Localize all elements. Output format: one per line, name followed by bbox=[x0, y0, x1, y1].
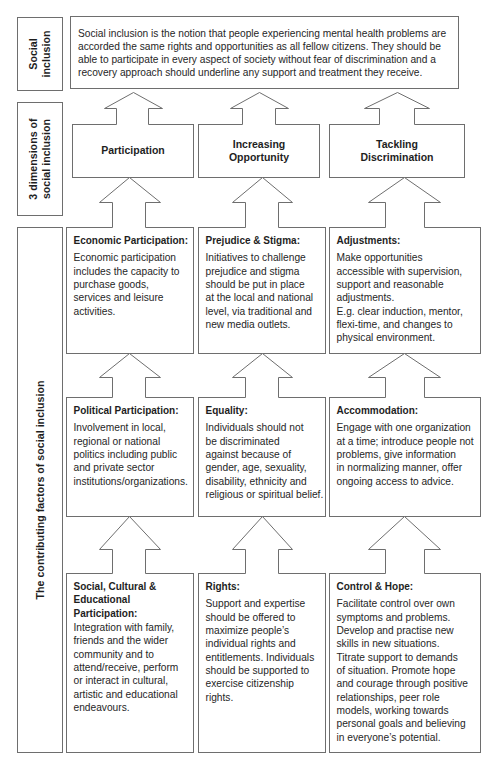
factor-body: Support and expertise should be offered … bbox=[206, 597, 319, 704]
up-arrow-icon bbox=[233, 354, 293, 399]
factor-card-equality: Equality: Individuals should not be disc… bbox=[198, 397, 326, 517]
social-inclusion-definition-text: Social inclusion is the notion that peop… bbox=[78, 27, 446, 80]
up-arrow-icon bbox=[369, 517, 441, 575]
label-contributing-factors-text: The contributing factors of social inclu… bbox=[34, 380, 47, 599]
up-arrow-icon bbox=[369, 178, 441, 229]
factor-heading: Control & Hope: bbox=[337, 580, 474, 593]
up-arrow-icon bbox=[100, 354, 161, 399]
up-arrow-icon bbox=[231, 93, 289, 126]
dimension-label: Participation bbox=[101, 144, 165, 158]
label-social-inclusion-text: Social inclusion bbox=[27, 31, 53, 78]
factor-card-rights: Rights: Support and expertise should be … bbox=[198, 573, 326, 753]
factor-card-control-hope: Control & Hope: Facilitate control over … bbox=[329, 573, 481, 753]
factor-body: Integration with family, friends and the… bbox=[74, 621, 187, 714]
label-social-inclusion: Social inclusion bbox=[17, 17, 63, 91]
up-arrow-icon bbox=[100, 178, 161, 229]
factor-body: Initiatives to challenge prejudice and s… bbox=[206, 251, 319, 331]
dimension-tackling-discrimination: Tackling Discrimination bbox=[329, 124, 465, 178]
up-arrow-icon bbox=[233, 178, 293, 229]
factor-heading: Adjustments: bbox=[337, 234, 474, 247]
factor-body: Involvement in local, regional or nation… bbox=[74, 421, 187, 488]
up-arrow-icon bbox=[100, 517, 161, 575]
dimension-label: Tackling Discrimination bbox=[361, 138, 434, 165]
factor-card-social-cultural-educational: Social, Cultural & Educational Participa… bbox=[66, 573, 194, 753]
factor-body: Make opportunities accessible with super… bbox=[337, 251, 474, 344]
social-inclusion-definition-box: Social inclusion is the notion that peop… bbox=[70, 16, 459, 89]
factor-card-accommodation: Accommodation: Engage with one organizat… bbox=[329, 397, 481, 517]
up-arrow-icon bbox=[233, 517, 293, 575]
dimension-participation: Participation bbox=[72, 124, 194, 178]
factor-heading: Economic Participation: bbox=[74, 234, 187, 247]
label-three-dimensions: 3 dimensions of social inclusion bbox=[17, 102, 63, 216]
factor-body: Engage with one organization at a time; … bbox=[337, 421, 474, 488]
factor-heading: Rights: bbox=[206, 580, 319, 593]
factor-heading: Political Participation: bbox=[74, 404, 187, 417]
factor-card-adjustments: Adjustments: Make opportunities accessib… bbox=[329, 227, 481, 354]
dimension-increasing-opportunity: Increasing Opportunity bbox=[198, 124, 320, 178]
factor-heading: Social, Cultural & Educational Participa… bbox=[74, 580, 187, 620]
factor-card-economic-participation: Economic Participation: Economic partici… bbox=[66, 227, 194, 354]
factor-body: Individuals should not be discriminated … bbox=[206, 421, 319, 501]
factor-heading: Accommodation: bbox=[337, 404, 474, 417]
factor-heading: Equality: bbox=[206, 404, 319, 417]
up-arrow-icon bbox=[369, 354, 441, 399]
up-arrow-icon bbox=[105, 93, 163, 126]
dimension-label: Increasing Opportunity bbox=[229, 138, 289, 165]
factor-card-political-participation: Political Participation: Involvement in … bbox=[66, 397, 194, 517]
label-three-dimensions-text: 3 dimensions of social inclusion bbox=[27, 118, 53, 199]
label-contributing-factors: The contributing factors of social inclu… bbox=[17, 227, 63, 753]
factor-body: Economic participation includes the capa… bbox=[74, 251, 187, 318]
factor-body: Facilitate control over own symptoms and… bbox=[337, 597, 474, 744]
factor-card-prejudice-stigma: Prejudice & Stigma: Initiatives to chall… bbox=[198, 227, 326, 354]
up-arrow-icon bbox=[365, 93, 430, 126]
factor-heading: Prejudice & Stigma: bbox=[206, 234, 319, 247]
